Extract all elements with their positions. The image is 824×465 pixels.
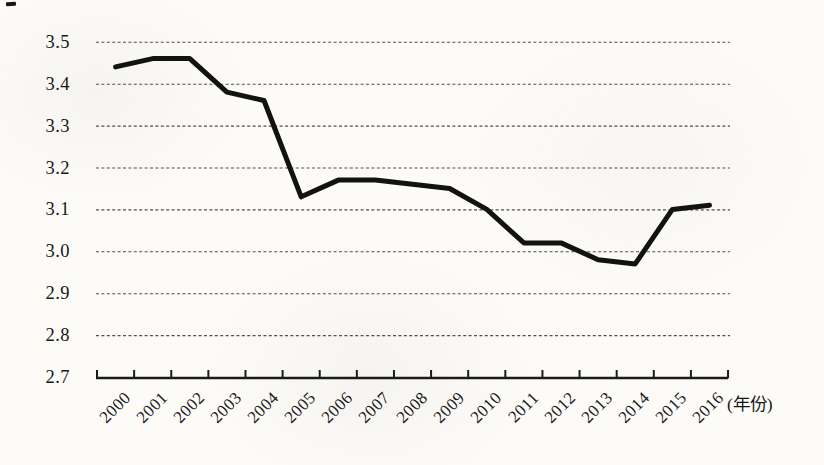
y-axis-tick-label: 3.5 <box>24 31 70 53</box>
y-axis-tick-label: 3.2 <box>24 157 70 179</box>
y-axis-tick-label: 2.9 <box>24 282 70 304</box>
scanned-chart-page: 3.53.43.33.23.13.02.92.82.7 200020012002… <box>0 0 824 465</box>
household-size-line-chart: 3.53.43.33.23.13.02.92.82.7 200020012002… <box>0 0 824 465</box>
data-series-line <box>116 59 710 264</box>
y-axis-tick-label: 3.4 <box>24 73 70 95</box>
y-axis-tick-label: 3.0 <box>24 240 70 262</box>
x-axis-unit-label: (年份) <box>727 390 773 415</box>
y-axis-tick-label: 2.8 <box>24 324 70 346</box>
y-axis-tick-label: 2.7 <box>24 366 70 388</box>
y-axis-tick-label: 3.1 <box>24 198 70 220</box>
y-axis-tick-label: 3.3 <box>24 115 70 137</box>
